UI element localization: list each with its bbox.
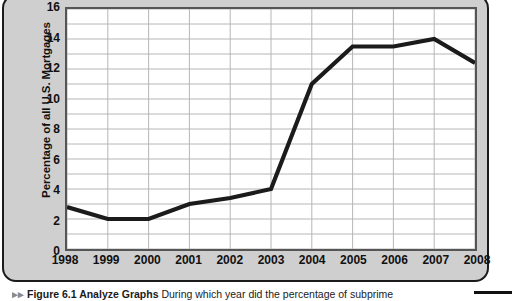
x-tick-label-2006: 2006: [381, 253, 408, 267]
y-tick-label-16: 16: [38, 0, 60, 14]
y-tick-label-14: 14: [38, 31, 60, 45]
y-tick-label-12: 12: [38, 61, 60, 75]
x-tick-label-1998: 1998: [52, 253, 79, 267]
x-tick-label-2007: 2007: [422, 253, 449, 267]
figure-caption: ▸▸Figure 6.1 Analyze Graphs During which…: [12, 288, 467, 300]
caption-title: Figure 6.1 Analyze Graphs: [27, 288, 159, 300]
caption-question-text: During which year did the percentage of …: [161, 288, 393, 300]
line-chart-svg: [67, 9, 475, 249]
y-axis-tick-labels: 0246810121416: [38, 7, 60, 251]
x-tick-label-2005: 2005: [340, 253, 367, 267]
plot-inner: [67, 9, 475, 249]
y-tick-label-8: 8: [38, 122, 60, 136]
x-tick-label-2004: 2004: [299, 253, 326, 267]
figure-screenshot: Percentage of all U.S. Mortgages 0246810…: [0, 0, 526, 301]
x-tick-label-2002: 2002: [216, 253, 243, 267]
figure-panel: Percentage of all U.S. Mortgages 0246810…: [2, 0, 489, 282]
y-tick-label-4: 4: [38, 183, 60, 197]
x-axis-tick-labels: 1998199920002001200220032004200520062007…: [65, 253, 477, 271]
x-tick-label-2008: 2008: [464, 253, 491, 267]
x-tick-label-1999: 1999: [93, 253, 120, 267]
y-tick-label-10: 10: [38, 92, 60, 106]
x-tick-label-2003: 2003: [258, 253, 285, 267]
x-tick-label-2001: 2001: [175, 253, 202, 267]
caption-marker-icon: ▸▸: [12, 288, 24, 300]
y-tick-label-2: 2: [38, 214, 60, 228]
caption-rule-divider: [474, 291, 512, 294]
plot-area: [65, 7, 477, 251]
y-tick-label-6: 6: [38, 153, 60, 167]
x-tick-label-2000: 2000: [134, 253, 161, 267]
